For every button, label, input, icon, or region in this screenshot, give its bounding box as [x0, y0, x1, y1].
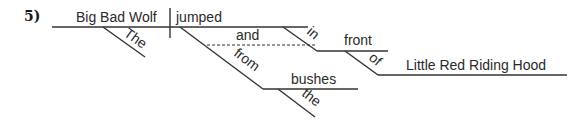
preposition-of-text: of — [366, 49, 385, 69]
object-lrrh-text: Little Red Riding Hood — [406, 57, 546, 73]
conjunction-text: and — [236, 27, 259, 43]
sentence-diagram: Big Bad Wolf jumped The from and in fron… — [0, 0, 587, 130]
preposition-from-text: from — [231, 45, 263, 75]
subject-text: Big Bad Wolf — [76, 9, 157, 25]
object-front-text: front — [344, 32, 372, 48]
object-bushes-text: bushes — [291, 71, 336, 87]
verb-text: jumped — [175, 9, 222, 25]
subject-modifier-text: The — [121, 24, 150, 51]
preposition-in-text: in — [304, 23, 323, 42]
